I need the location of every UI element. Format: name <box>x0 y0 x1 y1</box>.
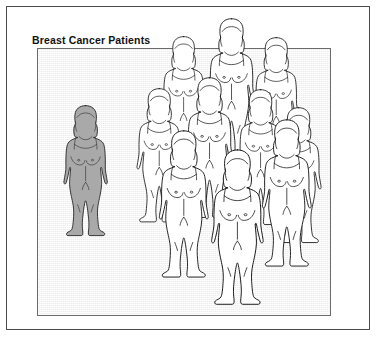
page-title: Breast Cancer Patients <box>30 33 153 48</box>
pictogram-figure: Breast Cancer Patients <box>0 0 383 349</box>
